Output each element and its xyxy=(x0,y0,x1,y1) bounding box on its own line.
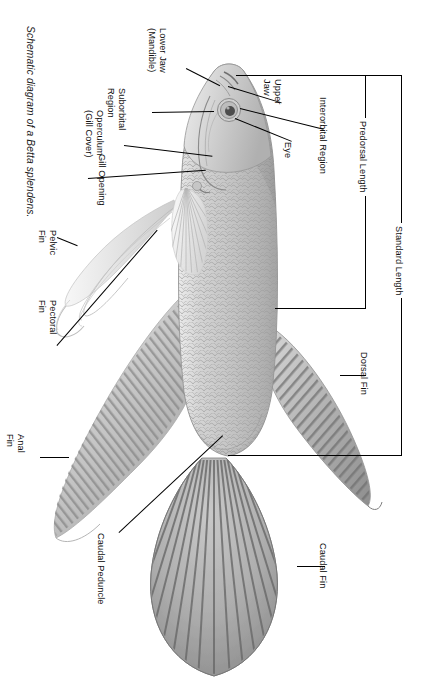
label-standard-length: Standard Length xyxy=(392,223,405,298)
label-suborbital-line1: Suborbital xyxy=(116,88,127,172)
figure-caption: Schematic diagram of a Betta splendens. xyxy=(25,26,36,218)
bracket-standard-bottom-arm xyxy=(228,455,402,456)
label-eye: Eye xyxy=(282,142,293,158)
label-predorsal-length: Predorsal Length xyxy=(356,118,369,196)
caudal-fin-shape xyxy=(144,452,284,682)
leader-operculum xyxy=(124,145,213,157)
leader-anal-fin xyxy=(40,457,69,458)
label-interorbital-region: Interorbital Region xyxy=(317,97,328,174)
label-anal-fin: Anal Fin xyxy=(5,434,26,476)
label-anal-fin-line2: Fin xyxy=(5,434,16,476)
leader-lower-jaw xyxy=(186,68,220,86)
label-gill-opening: Gill Opening xyxy=(96,154,107,206)
leader-pectoral-fin xyxy=(56,230,157,346)
leader-caudal-peduncle xyxy=(119,435,224,533)
leader-pelvic-fin xyxy=(57,237,78,247)
label-lower-jaw-line2: (Mandible) xyxy=(147,28,158,120)
label-lower-jaw-line1: Lower Jaw xyxy=(157,28,168,120)
label-operculum-line2: (Gill Cover) xyxy=(84,110,95,202)
leader-caudal-fin xyxy=(297,566,325,567)
label-suborbital-line2: Region xyxy=(106,88,117,172)
bracket-standard-top-arm xyxy=(296,75,402,76)
figure-canvas: Schematic diagram of a Betta splendens. … xyxy=(0,0,429,700)
dorsal-fin-shape xyxy=(240,310,400,530)
label-caudal-peduncle: Caudal Peduncle xyxy=(95,533,106,604)
label-pectoral-fin: Pectoral Fin xyxy=(37,300,58,348)
label-pelvic-fin-line2: Fin xyxy=(37,230,48,270)
leader-dorsal-fin xyxy=(340,375,366,376)
bracket-predorsal-bottom-arm xyxy=(275,308,366,309)
label-pelvic-fin: Pelvic Fin xyxy=(37,230,58,270)
pelvic-fin-shape xyxy=(56,200,176,337)
label-suborbital-region: Suborbital Region xyxy=(106,88,127,172)
pectoral-fin-shape xyxy=(168,186,212,278)
fish-body-shape xyxy=(170,64,290,470)
leader-suborbital-region xyxy=(152,111,214,113)
label-anal-fin-line1: Anal xyxy=(15,434,26,476)
label-dorsal-fin: Dorsal Fin xyxy=(358,352,369,395)
anal-fin-shape xyxy=(30,270,250,570)
label-pectoral-fin-line1: Pectoral xyxy=(47,300,58,348)
label-pectoral-fin-line2: Fin xyxy=(37,300,48,348)
label-lower-jaw: Lower Jaw (Mandible) xyxy=(147,28,168,120)
